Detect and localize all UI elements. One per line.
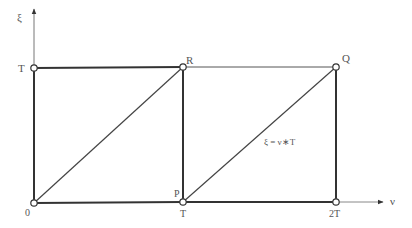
spacetime-diagram: ξ ν T 0 R Q P T 2T ξ = ν∗T (0, 0, 412, 228)
point-origin (31, 200, 37, 206)
label-r: R (186, 54, 194, 66)
point-q (333, 64, 339, 70)
label-p-tick: T (180, 208, 186, 219)
right-diagonal (183, 67, 336, 202)
label-q: Q (342, 52, 350, 64)
label-2t: 2T (329, 208, 340, 219)
left-square-top-edge (34, 67, 183, 68)
xi-axis-label: ξ (17, 11, 22, 24)
label-t-axis: T (18, 62, 25, 74)
left-square-bottom-edge (34, 202, 183, 203)
diagonal-equation-label: ξ = ν∗T (264, 137, 296, 147)
label-origin: 0 (25, 207, 30, 218)
point-2t (333, 199, 339, 205)
left-diagonal (34, 67, 183, 203)
label-p: P (174, 188, 180, 199)
point-p (180, 199, 186, 205)
point-t-axis (31, 65, 37, 71)
nu-axis-label: ν (390, 195, 395, 207)
